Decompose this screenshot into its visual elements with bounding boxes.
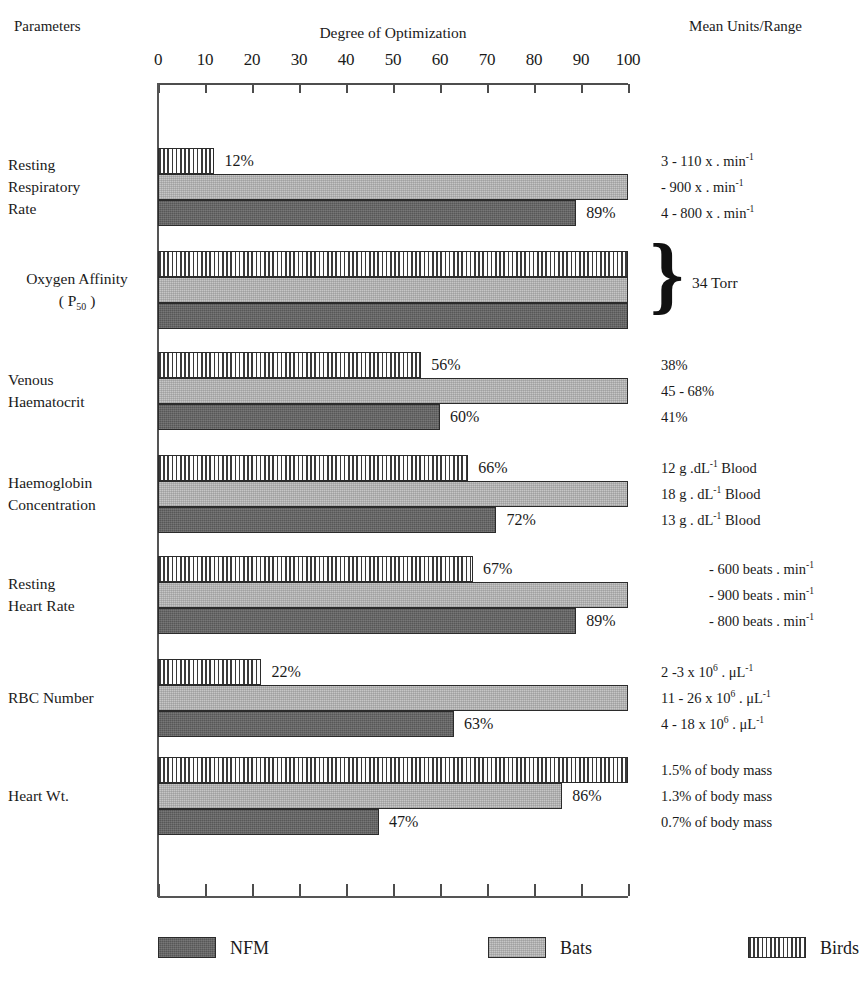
bar-row: 67% (158, 556, 628, 582)
unit-value: 12 g .dL-1 Blood (655, 455, 836, 481)
bar-value-label: 67% (483, 556, 512, 582)
axis-tick-mark (299, 84, 301, 93)
chart-group-heart-wt: 86%47%Heart Wt.1.5% of body mass1.3% of … (0, 757, 836, 835)
bar-row (158, 481, 628, 507)
bar-value-label: 12% (224, 148, 253, 174)
bar-value-label: 66% (478, 455, 507, 481)
parameter-label-line: Heart Wt. (8, 785, 150, 807)
parameter-label-heart-wt: Heart Wt. (8, 785, 150, 807)
parameter-label-rbc-number: RBC Number (8, 687, 150, 709)
units-column-heart-wt: 1.5% of body mass1.3% of body mass0.7% o… (655, 757, 836, 835)
axis-tick-mark (628, 84, 630, 93)
bar-row (158, 757, 628, 783)
bar-nfm (158, 200, 576, 226)
unit-value: 18 g . dL-1 Blood (655, 481, 836, 507)
axis-tick-mark (205, 84, 207, 93)
x-axis-tick-label: 50 (385, 50, 401, 70)
bar-bats (158, 685, 628, 711)
parameter-label-line: Haemoglobin (8, 472, 150, 494)
bar-bats (158, 582, 628, 608)
bar-row: 12% (158, 148, 628, 174)
bar-row (158, 277, 628, 303)
unit-value: 3 - 110 x . min-1 (655, 148, 836, 174)
axis-tick-mark (393, 84, 395, 93)
units-column-resting-respiratory-rate: 3 - 110 x . min-1- 900 x . min-14 - 800 … (655, 148, 836, 226)
x-axis-tick-label: 60 (432, 50, 448, 70)
bar-birds (158, 556, 473, 582)
bar-bats (158, 783, 562, 809)
bar-birds (158, 757, 628, 783)
x-axis-tick-label: 70 (479, 50, 495, 70)
x-axis-tick-label: 100 (616, 50, 641, 70)
bar-birds (158, 352, 421, 378)
bar-row: 22% (158, 659, 628, 685)
bar-row (158, 378, 628, 404)
chart-group-venous-haematocrit: 56%60%VenousHaematocrit38%45 - 68%41% (0, 352, 836, 430)
bar-birds (158, 455, 468, 481)
unit-value: 11 - 26 x 106 . μL-1 (655, 685, 836, 711)
axis-tick-mark (158, 884, 160, 896)
brace-value-label: 34 Torr (692, 274, 738, 292)
unit-value: 41% (655, 404, 836, 430)
bar-row: 89% (158, 608, 628, 634)
bar-row: 63% (158, 711, 628, 737)
bar-nfm (158, 608, 576, 634)
parameter-label-line: Venous (8, 369, 150, 391)
bar-bats (158, 378, 628, 404)
parameter-label-line: ( P50 ) (2, 290, 152, 312)
legend-label: Birds (820, 933, 859, 963)
bar-row: 72% (158, 507, 628, 533)
legend-label: NFM (230, 933, 269, 963)
bar-nfm (158, 809, 379, 835)
bar-row: 89% (158, 200, 628, 226)
unit-value: - 900 beats . min-1 (655, 582, 836, 608)
unit-value: 13 g . dL-1 Blood (655, 507, 836, 533)
x-axis-tick-labels: 0102030405060708090100 (158, 50, 628, 72)
curly-brace-icon: } (650, 236, 684, 312)
axis-tick-mark (581, 884, 583, 896)
parameter-label-line: Rate (8, 198, 150, 220)
axis-tick-mark (487, 84, 489, 93)
parameter-label-line: Concentration (8, 494, 150, 516)
legend-swatch-nfm (158, 937, 216, 958)
parameter-label-resting-respiratory-rate: RestingRespiratoryRate (8, 154, 150, 220)
axis-tick-mark (440, 84, 442, 93)
bar-value-label: 56% (431, 352, 460, 378)
unit-value: - 900 x . min-1 (655, 174, 836, 200)
unit-value: 4 - 18 x 106 . μL-1 (655, 711, 836, 737)
bar-row: 47% (158, 809, 628, 835)
bar-value-label: 86% (572, 783, 601, 809)
chart-legend: NFMBatsBirds (158, 933, 678, 967)
column-header-mean-units-range: Mean Units/Range (655, 18, 836, 35)
bar-row: 66% (158, 455, 628, 481)
bar-nfm (158, 507, 496, 533)
axis-tick-mark (346, 84, 348, 93)
axis-tick-mark (393, 884, 395, 896)
legend-swatch-bats (488, 937, 546, 958)
parameter-label-line: Resting (8, 154, 150, 176)
axis-tick-mark (581, 84, 583, 93)
bar-row (158, 582, 628, 608)
bar-row (158, 685, 628, 711)
x-axis-tick-label: 20 (244, 50, 260, 70)
bar-value-label: 60% (450, 404, 479, 430)
parameter-label-line: RBC Number (8, 687, 150, 709)
chart-group-resting-respiratory-rate: 12%89%RestingRespiratoryRate3 - 110 x . … (0, 148, 836, 226)
x-axis-tick-label: 90 (573, 50, 589, 70)
bar-value-label: 72% (506, 507, 535, 533)
bar-birds (158, 659, 261, 685)
bar-bats (158, 481, 628, 507)
x-axis-tick-label: 40 (338, 50, 354, 70)
units-column-resting-heart-rate: - 600 beats . min-1- 900 beats . min-1- … (655, 556, 836, 634)
bar-value-label: 89% (586, 608, 615, 634)
unit-value: - 600 beats . min-1 (655, 556, 836, 582)
column-header-parameters: Parameters (14, 18, 81, 35)
unit-value: 0.7% of body mass (655, 809, 836, 835)
parameter-label-line: Haematocrit (8, 391, 150, 413)
axis-tick-mark (346, 884, 348, 896)
bar-birds (158, 251, 628, 277)
unit-value: 1.3% of body mass (655, 783, 836, 809)
units-column-venous-haematocrit: 38%45 - 68%41% (655, 352, 836, 430)
unit-value: 1.5% of body mass (655, 757, 836, 783)
